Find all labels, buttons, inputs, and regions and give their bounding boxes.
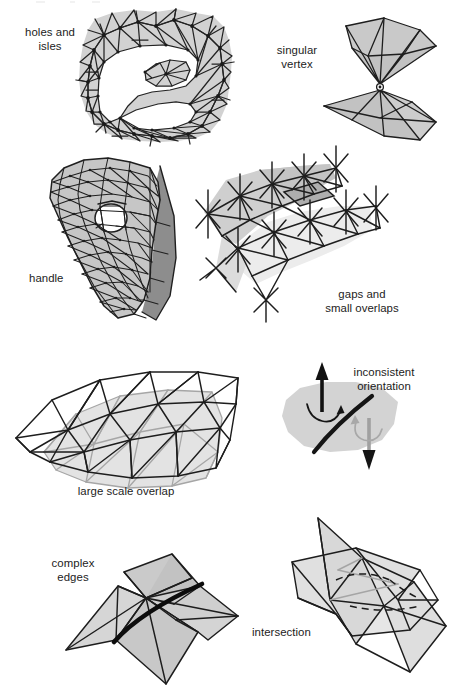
panel-intersection	[292, 518, 446, 672]
caption-intersection: intersection	[252, 626, 348, 640]
caption-inconsistent-orientation: inconsistent orientation	[318, 366, 450, 393]
panel-large-scale-overlap	[16, 372, 238, 488]
figure-canvas	[0, 0, 452, 688]
caption-large-scale-overlap: large scale overlap	[46, 485, 206, 499]
caption-holes-and-isles: holes and isles	[8, 26, 92, 53]
panel-holes-and-isles	[76, 9, 234, 146]
caption-gaps-and-small-overlaps: gaps and small overlaps	[300, 288, 424, 315]
caption-handle: handle	[29, 272, 95, 286]
singular-vertex-point	[377, 84, 384, 91]
panel-singular-vertex	[324, 18, 436, 140]
caption-singular-vertex: singular vertex	[256, 44, 338, 71]
panel-handle	[50, 158, 176, 320]
mesh-defects-figure: holes and isles singular vertex handle g…	[0, 0, 452, 688]
caption-complex-edges: complex edges	[38, 557, 108, 584]
